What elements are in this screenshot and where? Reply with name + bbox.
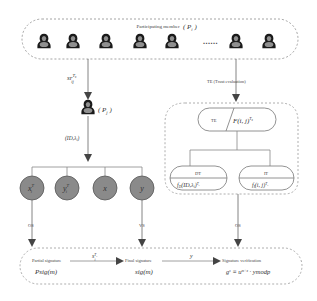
key-node-yiT: yTi bbox=[55, 176, 79, 200]
verify-title: Signature verification bbox=[222, 258, 262, 263]
svg-text:x: x bbox=[102, 184, 107, 193]
verify-formula: gs ≡ um+x · ymodp bbox=[226, 268, 271, 275]
vs-label: VS bbox=[139, 223, 145, 228]
ellipsis: ...... bbox=[203, 37, 218, 46]
partial-to-final-label: sTxi bbox=[92, 253, 98, 262]
key-node-y: y bbox=[130, 176, 154, 200]
it-title: IT bbox=[264, 171, 268, 176]
person-icon bbox=[133, 34, 146, 48]
svg-text:y: y bbox=[139, 184, 144, 193]
final-formula: sig(m) bbox=[135, 268, 154, 276]
participants-group: Participating member ( Pi ) ...... bbox=[22, 19, 298, 59]
selected-person-icon bbox=[81, 100, 94, 114]
key-branch bbox=[32, 167, 142, 176]
key-node-xiT: xTi bbox=[20, 176, 44, 200]
final-to-verify-label: y bbox=[189, 253, 193, 259]
partial-formula: Psig(m) bbox=[34, 268, 58, 276]
te-label: TE bbox=[211, 118, 217, 123]
trust-group: TE F(i, j)Tx DT fD(ID,λi)Tx IT fI(i, j)T… bbox=[165, 103, 298, 194]
person-icon bbox=[99, 34, 112, 48]
participants-title: Participating member bbox=[136, 24, 180, 29]
participants-symbol: ( Pi ) bbox=[183, 23, 197, 32]
trust-eval-label: TE (Trust evaluation) bbox=[207, 79, 246, 84]
share-label: srTxij bbox=[67, 73, 77, 84]
os-left-label: OS bbox=[28, 223, 34, 228]
id-lambda-label: (ID,λi) bbox=[65, 135, 79, 142]
diagram-canvas: Participating member ( Pi ) ...... srTxi… bbox=[0, 0, 317, 301]
key-node-x: x bbox=[93, 176, 117, 200]
person-icon bbox=[66, 34, 79, 48]
person-icon bbox=[262, 34, 275, 48]
person-icon bbox=[37, 34, 50, 48]
os-right-label: OS bbox=[235, 223, 241, 228]
person-icon bbox=[229, 34, 242, 48]
final-title: Final signature bbox=[125, 258, 152, 263]
partial-title: Partial signature bbox=[32, 258, 61, 263]
dt-title: DT bbox=[195, 171, 201, 176]
person-icon bbox=[165, 34, 178, 48]
selected-member-label: ( Pj ) bbox=[98, 106, 112, 115]
signature-group: Partial signature Psig(m) sTxi Final sig… bbox=[20, 248, 302, 284]
